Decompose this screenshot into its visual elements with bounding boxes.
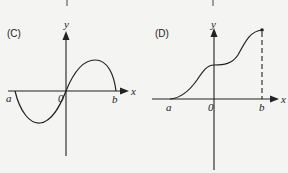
panel-c-origin-label: 0: [58, 92, 64, 104]
panel-d: (D) y x a 0 b: [152, 18, 286, 170]
panel-d-endpoint-marker: [260, 28, 264, 32]
panel-c-y-arrow-icon: [63, 31, 70, 40]
panel-d-a-label: a: [166, 101, 172, 113]
panel-c-b-label: b: [112, 93, 118, 105]
panel-c-y-label: y: [63, 18, 69, 30]
panel-d-x-arrow-icon: [270, 96, 279, 103]
panel-d-x-label: x: [280, 93, 286, 105]
panel-d-label: (D): [155, 28, 169, 39]
panel-c-x-arrow-icon: [120, 88, 129, 95]
panel-c-a-label: a: [6, 92, 12, 104]
figure-svg: (C) y x a 0 b (D) y x a 0 b: [0, 0, 288, 173]
panel-d-b-label: b: [259, 101, 265, 113]
panel-c-label: (C): [7, 28, 21, 39]
figure-canvas: (C) y x a 0 b (D) y x a 0 b: [0, 0, 288, 173]
panel-d-y-label: y: [210, 18, 216, 30]
panel-d-origin-label: 0: [208, 101, 214, 113]
panel-c-x-label: x: [130, 85, 136, 97]
panel-c: (C) y x a 0 b: [6, 18, 136, 156]
panel-d-curve: [170, 30, 262, 99]
